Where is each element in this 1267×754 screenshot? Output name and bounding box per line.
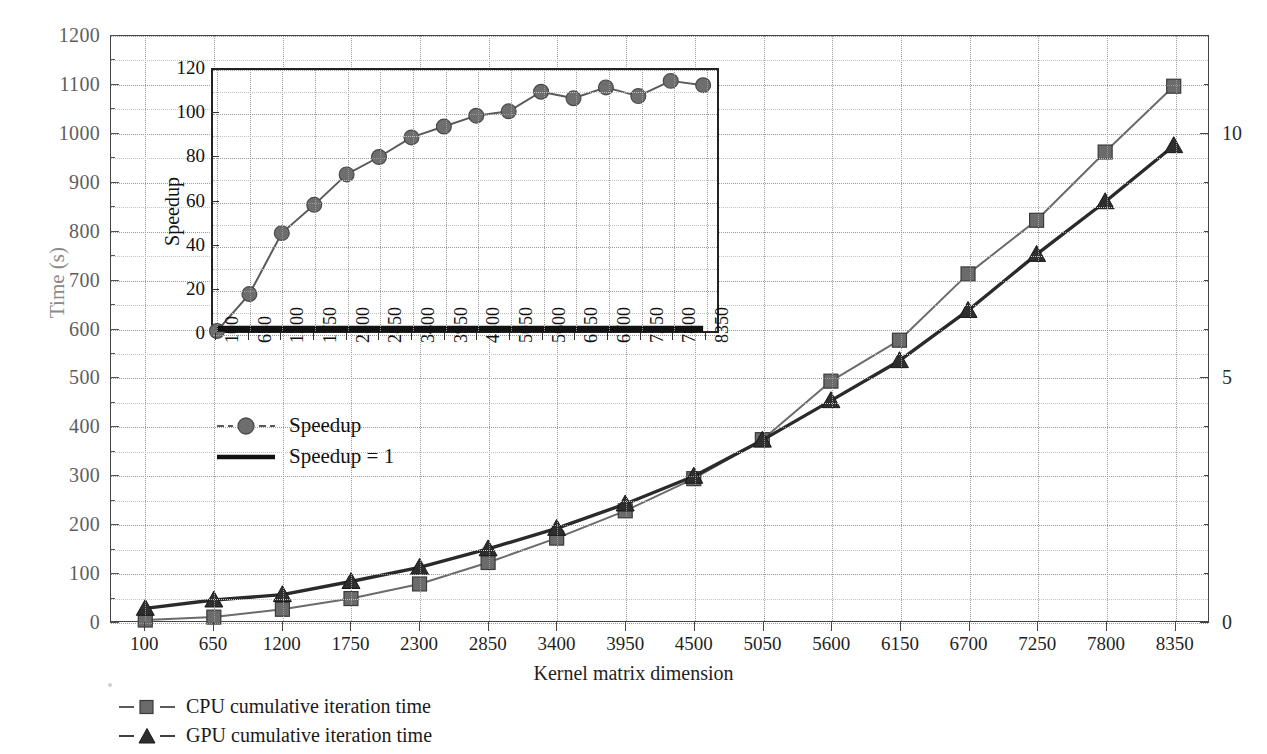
gridline-horizontal (111, 623, 1208, 624)
gridline-vertical (832, 36, 833, 621)
legend-label-speedup: Speedup (289, 413, 361, 438)
y-axis-minor-tick (110, 206, 115, 207)
y-axis-tick-label: 400 (69, 415, 100, 438)
inset-data-point-marker (696, 78, 711, 93)
inset-x-tick-label: 3400 (418, 307, 439, 343)
inset-x-tick-mark (542, 333, 543, 340)
y-axis-tick-mark (110, 329, 119, 330)
y2-axis-minor-tick (1204, 84, 1209, 85)
inset-x-tick-label: 5600 (549, 307, 570, 343)
y-axis-minor-tick (110, 451, 115, 452)
data-point-marker (824, 374, 838, 388)
y-axis-tick-label: 200 (69, 513, 100, 536)
y2-axis-tick-mark (1200, 133, 1209, 134)
inset-gridline-vertical (282, 70, 283, 331)
y2-axis-minor-tick (1204, 182, 1209, 183)
x-axis-tick-label: 7800 (1087, 633, 1125, 655)
x-axis-tick-label: 4500 (675, 633, 713, 655)
inset-y-tick-label: 100 (177, 101, 206, 123)
inset-y-tick-label: 40 (186, 234, 205, 256)
gridline-vertical (1038, 36, 1039, 621)
inset-data-point-marker (663, 73, 678, 88)
inset-y-axis-title: Speedup (161, 142, 184, 282)
inset-y-tick-label: 80 (186, 145, 205, 167)
inset-x-tick-label: 2850 (385, 307, 406, 343)
y-axis-tick-label: 1100 (60, 72, 100, 95)
gridline-horizontal (111, 525, 1208, 526)
y2-axis-tick-label: 0 (1222, 611, 1232, 634)
inset-y-tick-mark (211, 156, 219, 157)
inset-x-tick-label: 650 (255, 316, 276, 343)
inset-x-tick-label: 1750 (320, 307, 341, 343)
x-axis-tick-label: 7250 (1018, 633, 1056, 655)
y-axis-tick-label: 0 (90, 611, 100, 634)
inset-gridline-horizontal (213, 203, 717, 204)
gridline-vertical (901, 36, 902, 621)
inset-gridline-vertical (446, 70, 447, 331)
y-axis-tick-mark (110, 573, 119, 574)
inset-y-tick-label: 120 (177, 57, 206, 79)
speedup-one-line-icon (215, 447, 277, 467)
y-axis-minor-tick (110, 549, 115, 550)
inset-x-tick-label: 6150 (581, 307, 602, 343)
inset-plot-area (211, 68, 719, 333)
gridline-horizontal (111, 476, 1208, 477)
gridline-vertical (1107, 36, 1108, 621)
inset-x-tick-label: 7800 (679, 307, 700, 343)
x-axis-tick-label: 6150 (881, 633, 919, 655)
inset-x-tick-mark (280, 333, 281, 340)
inset-x-tick-mark (313, 333, 314, 340)
y-axis-tick-label: 1200 (59, 24, 100, 47)
inset-gridline-vertical (707, 70, 708, 331)
y2-axis-minor-tick (1204, 524, 1209, 525)
legend-item-speedup-one[interactable]: Speedup = 1 (215, 441, 465, 472)
legend-item-gpu[interactable]: GPU cumulative iteration time (118, 721, 432, 750)
x-axis-tick-mark (763, 622, 764, 631)
y2-axis-tick-mark (1200, 377, 1209, 378)
inset-data-point-marker (566, 91, 581, 106)
y-axis-tick-mark (110, 182, 119, 183)
gridline-horizontal (111, 403, 1208, 404)
legend-item-speedup[interactable]: Speedup (215, 410, 465, 441)
inset-x-tick-label: 3950 (451, 307, 472, 343)
y-axis-minor-tick (110, 500, 115, 501)
y-axis-minor-tick (110, 108, 115, 109)
y2-axis-minor-tick (1204, 35, 1209, 36)
inset-data-point-marker (436, 119, 451, 134)
x-axis-tick-mark (556, 622, 557, 631)
x-axis-tick-mark (900, 622, 901, 631)
y-axis-tick-mark (110, 377, 119, 378)
gridline-horizontal (111, 501, 1208, 502)
inset-gridline-horizontal (213, 70, 717, 71)
cpu-square-marker-icon (118, 698, 176, 716)
inset-y-tick-label: 0 (196, 322, 206, 344)
x-axis-tick-mark (969, 622, 970, 631)
x-axis-tick-label: 5600 (812, 633, 850, 655)
y-axis-tick-label: 300 (69, 464, 100, 487)
x-axis-tick-label: 3950 (606, 633, 644, 655)
inset-y-tick-mark (211, 201, 219, 202)
inset-gridline-horizontal (213, 158, 717, 159)
x-axis-tick-label: 2300 (400, 633, 438, 655)
y-axis-tick-label: 900 (69, 170, 100, 193)
x-axis-tick-label: 5050 (744, 633, 782, 655)
inset-x-tick-label: 6700 (614, 307, 635, 343)
inset-gridline-horizontal (213, 136, 717, 137)
decorative-speck (108, 683, 112, 687)
y2-axis-minor-tick (1204, 426, 1209, 427)
inset-gridline-horizontal (213, 291, 717, 292)
x-axis-tick-label: 100 (130, 633, 159, 655)
inset-x-tick-label: 2300 (353, 307, 374, 343)
y-axis-tick-label: 700 (69, 268, 100, 291)
y2-axis-minor-tick (1204, 475, 1209, 476)
inset-x-tick-label: 8350 (712, 307, 733, 343)
legend-item-cpu[interactable]: CPU cumulative iteration time (118, 692, 432, 721)
gridline-horizontal (111, 36, 1208, 37)
inset-gridline-vertical (576, 70, 577, 331)
x-axis-tick-mark (144, 622, 145, 631)
x-axis-tick-mark (1175, 622, 1176, 631)
y-axis-tick-mark (110, 475, 119, 476)
gpu-triangle-marker-icon (118, 727, 176, 745)
gridline-vertical (764, 36, 765, 621)
gridline-horizontal (111, 574, 1208, 575)
